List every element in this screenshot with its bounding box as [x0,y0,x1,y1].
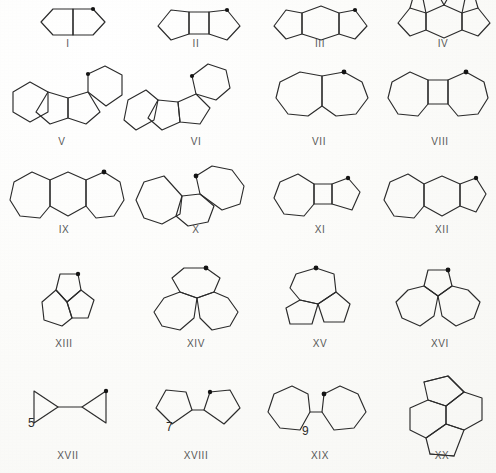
structure-label-V: V [32,136,92,147]
dot-marker-icon [474,176,478,180]
structure-XIV-drawing [144,268,250,334]
structure-label-VIII: VIII [410,136,470,147]
structure-VIII-drawing [384,66,494,122]
dot-marker-icon [104,389,108,393]
dot-marker-icon [91,7,95,11]
structure-II-drawing [152,4,246,42]
ring-size-annotation-XVII: 5 [28,416,35,430]
structure-label-XVIII: XVIII [166,450,226,461]
structure-label-XIX: XIX [292,450,348,461]
structure-XIII [34,268,100,330]
structure-label-XVI: XVI [412,338,468,349]
dot-marker-icon [346,176,350,180]
structure-I-drawing [30,4,116,40]
structure-VII [270,66,374,122]
structure-XIII-drawing [34,268,100,330]
dot-marker-icon [464,70,469,75]
dot-marker-icon [86,72,90,76]
dot-marker-icon [208,390,212,394]
structure-III [268,4,374,42]
dot-marker-icon [342,70,347,75]
structure-label-IV: IV [413,38,473,49]
structure-XVII [22,386,118,428]
structure-XV [274,268,362,334]
structure-VIII [384,66,494,122]
dot-marker-icon [314,266,319,271]
structure-label-X: X [166,224,226,235]
dot-marker-icon [225,8,229,12]
ring-size-annotation-XIX: 9 [302,424,309,438]
dot-marker-icon [322,392,327,397]
structure-XVIII-drawing [148,386,248,434]
structure-II [152,4,246,42]
dot-marker-icon [76,272,80,276]
dot-marker-icon [446,268,451,273]
structure-label-XIII: XIII [36,338,92,349]
structure-VI [126,62,254,136]
structure-IV [392,0,496,40]
structure-XVIII [148,386,248,434]
ring-size-annotation-XVIII: 7 [166,420,173,434]
structure-label-XV: XV [292,338,348,349]
structure-VII-drawing [270,66,374,122]
structure-label-IX: IX [34,224,94,235]
structure-XII-drawing [382,170,494,224]
structure-XVII-drawing [22,386,118,428]
structure-XV-drawing [274,268,362,334]
structure-IX [8,166,130,224]
dot-marker-icon [353,8,357,12]
structure-XI [272,170,372,220]
structure-label-VII: VII [289,136,349,147]
structure-label-XIV: XIV [168,338,224,349]
structure-IX-drawing [8,166,130,224]
structure-label-XII: XII [412,224,472,235]
structure-XI-drawing [272,170,372,220]
dot-marker-icon [194,174,199,179]
structure-XIV [144,268,250,334]
structure-XX [398,378,494,452]
structure-V-drawing [8,62,132,132]
structure-label-I: I [38,38,98,49]
dot-marker-icon [102,170,107,175]
structure-label-XX: XX [414,450,470,461]
structure-label-XI: XI [290,224,350,235]
structure-III-drawing [268,4,374,42]
structure-label-XVII: XVII [40,450,96,461]
structure-XX-drawing [398,378,494,452]
structure-label-II: II [166,38,226,49]
structure-VI-drawing [126,62,254,136]
dot-marker-icon [204,266,209,271]
dot-marker-icon [190,74,194,78]
structure-X-drawing [134,166,256,230]
structure-I [30,4,116,40]
structures-plate: I II III [0,0,496,473]
structure-V [8,62,132,132]
structure-XII [382,170,494,224]
structure-XIX-drawing [266,386,374,440]
structure-label-III: III [290,38,350,49]
structure-X [134,166,256,230]
structure-XVI-drawing [388,268,488,332]
structure-label-VI: VI [166,136,226,147]
structure-IV-drawing [392,0,496,40]
structure-XIX [266,386,374,440]
structure-XVI [388,268,488,332]
